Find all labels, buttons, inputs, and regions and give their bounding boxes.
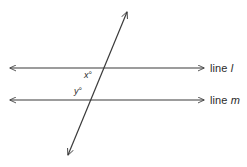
geometry-canvas	[0, 0, 247, 167]
angle-x-degree-symbol: °	[89, 70, 93, 80]
angle-x-label: x°	[84, 70, 92, 80]
line-m-label-name: m	[231, 94, 240, 106]
angle-y-degree-symbol: °	[79, 86, 83, 96]
line-l-label: line l	[210, 62, 233, 74]
line-l-label-prefix: line	[210, 62, 231, 74]
geometry-figure: line l line m x° y°	[0, 0, 247, 167]
angle-y-label: y°	[74, 86, 82, 96]
line-m-label-prefix: line	[210, 94, 231, 106]
line-m-label: line m	[210, 94, 240, 106]
line-l-label-name: l	[231, 62, 234, 74]
transversal-line-stroke	[68, 12, 127, 155]
